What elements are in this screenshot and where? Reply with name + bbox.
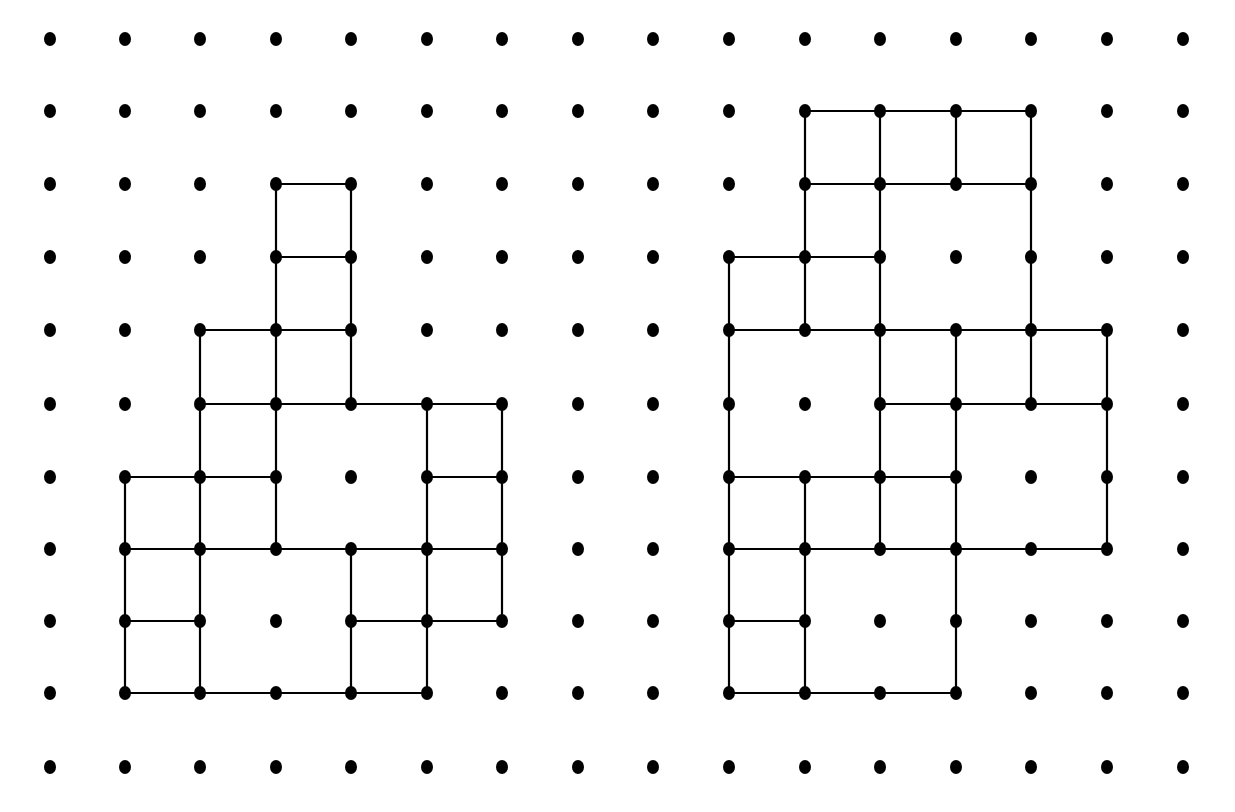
grid-dot <box>496 760 508 774</box>
grid-dot <box>1025 470 1037 484</box>
grid-dot <box>1025 686 1037 700</box>
grid-dot <box>572 32 584 46</box>
grid-dot <box>194 177 206 191</box>
grid-dot <box>119 542 131 556</box>
grid-dot <box>799 686 811 700</box>
grid-dot <box>874 177 886 191</box>
grid-dot <box>44 760 56 774</box>
grid-dot <box>421 323 433 337</box>
grid-dot <box>345 250 357 264</box>
grid-dot <box>345 470 357 484</box>
grid-dot <box>496 470 508 484</box>
grid-dot <box>1101 686 1113 700</box>
grid-dot <box>194 250 206 264</box>
grid-dot <box>270 32 282 46</box>
grid-dot <box>1177 760 1189 774</box>
grid-dot <box>647 104 659 118</box>
grid-dot <box>119 104 131 118</box>
grid-dot <box>647 250 659 264</box>
grid-dot <box>572 397 584 411</box>
grid-dot <box>874 32 886 46</box>
grid-dot <box>1025 614 1037 628</box>
grid-dot <box>119 397 131 411</box>
grid-dot <box>345 104 357 118</box>
grid-dot <box>647 542 659 556</box>
grid-dot <box>496 177 508 191</box>
grid-dot <box>270 250 282 264</box>
grid-dot <box>119 177 131 191</box>
grid-dot <box>119 32 131 46</box>
grid-dot <box>1025 250 1037 264</box>
grid-dot <box>723 250 735 264</box>
grid-dot <box>874 614 886 628</box>
grid-dot <box>44 177 56 191</box>
grid-dot <box>44 470 56 484</box>
grid-dot <box>799 104 811 118</box>
grid-dot <box>723 470 735 484</box>
grid-dot <box>1025 542 1037 556</box>
grid-dot <box>950 397 962 411</box>
grid-dot <box>194 32 206 46</box>
grid-dot <box>1177 686 1189 700</box>
grid-dot <box>1177 542 1189 556</box>
grid-dot <box>270 397 282 411</box>
grid-dot <box>874 397 886 411</box>
grid-dot <box>1101 470 1113 484</box>
grid-dot <box>119 614 131 628</box>
grid-dot <box>270 760 282 774</box>
grid-dot <box>345 614 357 628</box>
grid-dot <box>270 542 282 556</box>
grid-dot <box>1177 397 1189 411</box>
grid-dot <box>950 32 962 46</box>
grid-dot <box>723 32 735 46</box>
grid-dot <box>799 760 811 774</box>
grid-dot <box>799 614 811 628</box>
grid-dot <box>496 323 508 337</box>
grid-dot <box>572 760 584 774</box>
grid-dot <box>496 614 508 628</box>
grid-dot <box>345 397 357 411</box>
grid-dot <box>950 686 962 700</box>
grid-dot <box>1025 104 1037 118</box>
grid-dot <box>1177 32 1189 46</box>
grid-dot <box>1101 32 1113 46</box>
grid-dot <box>496 32 508 46</box>
grid-dot <box>1177 470 1189 484</box>
grid-dot <box>194 614 206 628</box>
grid-dot <box>421 470 433 484</box>
left-figure <box>125 184 502 693</box>
grid-dot <box>950 177 962 191</box>
grid-dot <box>1025 32 1037 46</box>
grid-dot <box>44 397 56 411</box>
grid-dot <box>496 250 508 264</box>
grid-dot <box>496 104 508 118</box>
grid-dot <box>496 542 508 556</box>
grid-dot <box>44 250 56 264</box>
grid-dot <box>1177 323 1189 337</box>
grid-dot <box>1177 250 1189 264</box>
grid-dot <box>950 760 962 774</box>
grid-dot <box>496 686 508 700</box>
grid-dot <box>421 614 433 628</box>
grid-dot <box>799 250 811 264</box>
grid-dot <box>1177 177 1189 191</box>
grid-dot <box>874 250 886 264</box>
grid-dot <box>194 470 206 484</box>
grid-dot <box>194 760 206 774</box>
grid-dot <box>950 104 962 118</box>
grid-dot <box>119 760 131 774</box>
grid-dot <box>119 250 131 264</box>
grid-dot <box>874 104 886 118</box>
grid-dot <box>572 104 584 118</box>
grid-dot <box>119 323 131 337</box>
grid-dot <box>194 323 206 337</box>
grid-dot <box>723 760 735 774</box>
grid-dot <box>194 542 206 556</box>
grid-dot <box>723 397 735 411</box>
grid-dot <box>421 686 433 700</box>
grid-dot <box>647 32 659 46</box>
grid-dot <box>572 177 584 191</box>
grid-dot <box>44 614 56 628</box>
grid-dot <box>345 177 357 191</box>
grid-dot <box>1101 250 1113 264</box>
